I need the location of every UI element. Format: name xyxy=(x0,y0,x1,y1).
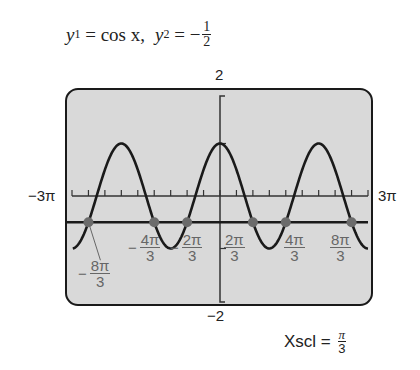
xscl-numerator: π xyxy=(338,328,347,342)
intersection-point xyxy=(248,217,258,227)
intersection-label: −2π3 xyxy=(170,232,202,263)
intersection-point xyxy=(347,217,357,227)
intersection-label: −4π3 xyxy=(128,232,160,263)
intersection-label: −8π3 xyxy=(78,258,110,289)
intersection-point xyxy=(83,217,93,227)
intersection-point xyxy=(149,217,159,227)
intersection-point xyxy=(182,217,192,227)
intersection-point xyxy=(281,217,291,227)
xscl-text: Xscl = xyxy=(284,332,336,352)
graph-screen xyxy=(0,0,420,370)
screen-frame xyxy=(66,89,372,305)
xscl-label: Xscl = π 3 xyxy=(284,328,346,355)
intersection-label: 8π3 xyxy=(327,232,351,263)
xscl-denominator: 3 xyxy=(338,342,345,355)
intersection-label: 4π3 xyxy=(281,232,305,263)
xscl-fraction: π 3 xyxy=(338,328,347,355)
intersection-label: 2π3 xyxy=(221,232,245,263)
